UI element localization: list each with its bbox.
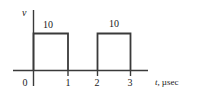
pulse-one-amplitude-label: 10 xyxy=(37,20,59,30)
pulse-one-trace xyxy=(34,34,69,71)
x-tick-label-1: 1 xyxy=(62,78,74,88)
pulse-two-amplitude-label: 10 xyxy=(103,19,125,29)
x-axis-caption-unit: µsec xyxy=(162,77,179,87)
x-tick-label-3: 3 xyxy=(124,78,136,88)
y-axis-label: v xyxy=(22,8,26,18)
x-axis-caption: t,µsec xyxy=(155,78,178,87)
pulse-two-trace xyxy=(98,34,131,71)
waveform-plot xyxy=(0,0,203,106)
x-tick-label-0: 0 xyxy=(19,78,31,88)
x-tick-label-2: 2 xyxy=(91,78,103,88)
waveform-figure: v 10 10 0 1 2 3 t,µsec xyxy=(0,0,203,106)
x-axis-caption-symbol: t, xyxy=(155,77,160,87)
